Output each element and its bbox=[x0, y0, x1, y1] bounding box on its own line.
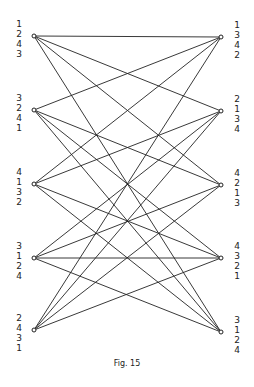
label-digit: 1 bbox=[14, 251, 24, 261]
label-digit: 4 bbox=[232, 40, 242, 50]
label-digit: 3 bbox=[232, 315, 242, 325]
edge-L3-R1 bbox=[34, 37, 221, 184]
label-digit: 3 bbox=[232, 30, 242, 40]
label-digit: 1 bbox=[232, 20, 242, 30]
label-digit: 1 bbox=[14, 177, 24, 187]
node-L3 bbox=[32, 182, 36, 186]
edge-L1-R1 bbox=[34, 36, 221, 37]
label-digit: 4 bbox=[14, 323, 24, 333]
label-digit: 2 bbox=[232, 335, 242, 345]
node-L1 bbox=[32, 34, 36, 38]
bipartite-graph bbox=[0, 0, 254, 387]
label-digit: 3 bbox=[14, 49, 24, 59]
label-digit: 3 bbox=[14, 241, 24, 251]
label-digit: 4 bbox=[232, 241, 242, 251]
label-digit: 2 bbox=[14, 103, 24, 113]
node-label-L5: 2431 bbox=[14, 313, 24, 353]
node-label-L4: 3124 bbox=[14, 241, 24, 281]
label-digit: 3 bbox=[232, 114, 242, 124]
node-label-L3: 4132 bbox=[14, 167, 24, 207]
label-digit: 3 bbox=[232, 198, 242, 208]
label-digit: 3 bbox=[14, 187, 24, 197]
label-digit: 1 bbox=[232, 188, 242, 198]
label-digit: 4 bbox=[232, 168, 242, 178]
node-label-L1: 1243 bbox=[14, 19, 24, 59]
edge-L3-R2 bbox=[34, 111, 221, 184]
label-digit: 2 bbox=[14, 197, 24, 207]
node-label-R3: 4213 bbox=[232, 168, 242, 208]
label-digit: 1 bbox=[14, 19, 24, 29]
node-label-R1: 1342 bbox=[232, 20, 242, 60]
node-R3 bbox=[219, 183, 223, 187]
node-label-L2: 3241 bbox=[14, 93, 24, 133]
node-R2 bbox=[219, 109, 223, 113]
edges bbox=[34, 36, 221, 332]
label-digit: 2 bbox=[232, 261, 242, 271]
node-L2 bbox=[32, 108, 36, 112]
label-digit: 2 bbox=[14, 313, 24, 323]
label-digit: 4 bbox=[232, 345, 242, 355]
node-label-R5: 3124 bbox=[232, 315, 242, 355]
node-R4 bbox=[219, 256, 223, 260]
label-digit: 1 bbox=[14, 123, 24, 133]
label-digit: 4 bbox=[14, 39, 24, 49]
label-digit: 4 bbox=[232, 124, 242, 134]
edge-L2-R1 bbox=[34, 37, 221, 110]
label-digit: 4 bbox=[14, 167, 24, 177]
label-digit: 2 bbox=[232, 94, 242, 104]
node-label-R2: 2134 bbox=[232, 94, 242, 134]
label-digit: 4 bbox=[14, 271, 24, 281]
label-digit: 4 bbox=[14, 113, 24, 123]
node-R5 bbox=[219, 330, 223, 334]
label-digit: 2 bbox=[14, 261, 24, 271]
label-digit: 1 bbox=[232, 325, 242, 335]
label-digit: 3 bbox=[232, 251, 242, 261]
label-digit: 2 bbox=[232, 50, 242, 60]
label-digit: 1 bbox=[232, 104, 242, 114]
label-digit: 1 bbox=[232, 271, 242, 281]
node-R1 bbox=[219, 35, 223, 39]
label-digit: 1 bbox=[14, 343, 24, 353]
node-label-R4: 4321 bbox=[232, 241, 242, 281]
figure-caption: Fig. 15 bbox=[0, 359, 254, 368]
label-digit: 3 bbox=[14, 93, 24, 103]
label-digit: 2 bbox=[14, 29, 24, 39]
node-L4 bbox=[32, 256, 36, 260]
label-digit: 2 bbox=[232, 178, 242, 188]
label-digit: 3 bbox=[14, 333, 24, 343]
node-L5 bbox=[32, 328, 36, 332]
